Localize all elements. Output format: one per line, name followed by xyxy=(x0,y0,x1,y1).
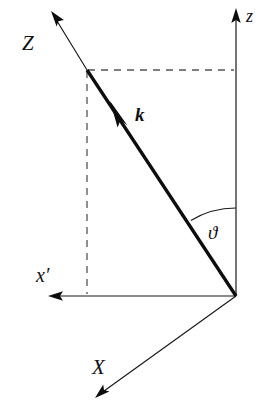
Z-axis xyxy=(51,11,87,70)
Z-axis-arrowhead-icon xyxy=(51,11,64,27)
Z-axis-label: Z xyxy=(22,31,34,55)
x-prime-axis xyxy=(48,291,236,301)
X-axis xyxy=(95,296,236,398)
z-axis xyxy=(231,8,240,296)
wave-vector-k-line xyxy=(87,70,236,296)
x-prime-axis-label: x′ xyxy=(35,264,50,286)
wave-vector-k-arrowhead-icon xyxy=(110,101,128,128)
polar-angle-arc-path xyxy=(191,208,236,220)
X-axis-line xyxy=(104,296,236,391)
diagram-canvas: z Z x′ X k ϑ xyxy=(0,0,265,420)
coordinate-diagram: z Z x′ X k ϑ xyxy=(0,0,265,420)
X-axis-arrowhead-icon xyxy=(95,385,109,399)
wave-vector-k-label: k xyxy=(135,104,145,125)
X-axis-label: X xyxy=(91,355,106,379)
polar-angle-label: ϑ xyxy=(208,222,219,243)
z-axis-label: z xyxy=(245,6,253,26)
polar-angle-arc xyxy=(191,208,236,220)
wave-vector-k xyxy=(87,70,236,296)
Z-axis-line xyxy=(57,21,87,70)
